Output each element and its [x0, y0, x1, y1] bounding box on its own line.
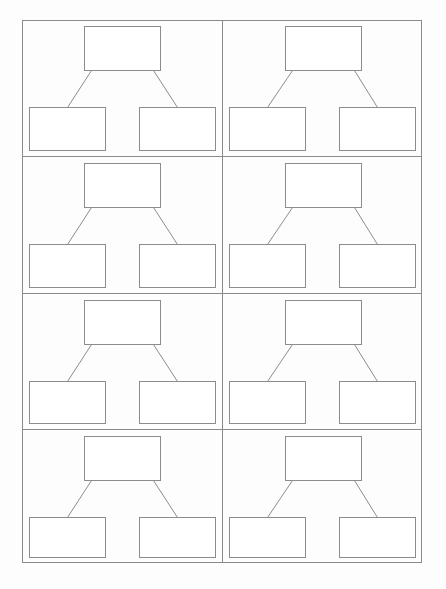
- right-connector-line: [355, 208, 378, 245]
- left-connector-line: [68, 71, 92, 108]
- right-connector-line: [355, 481, 378, 518]
- left-child-box-text[interactable]: [230, 245, 305, 287]
- tree-diagram-cell: [22, 293, 222, 429]
- left-child-box-text[interactable]: [30, 518, 105, 557]
- left-child-box-text[interactable]: [30, 108, 105, 150]
- right-connector-line: [154, 208, 178, 245]
- parent-box-text[interactable]: [85, 301, 160, 344]
- parent-box-text[interactable]: [85, 27, 160, 70]
- parent-box-text[interactable]: [286, 27, 361, 70]
- left-connector-line: [268, 71, 293, 108]
- right-child-box-text[interactable]: [140, 518, 215, 557]
- tree-diagram-cell: [222, 20, 422, 156]
- right-child-box-text[interactable]: [140, 245, 215, 287]
- left-child-box-text[interactable]: [230, 108, 305, 150]
- tree-diagram-cell: [222, 429, 422, 563]
- left-child-box-text[interactable]: [30, 245, 105, 287]
- right-child-box-text[interactable]: [140, 382, 215, 423]
- left-child-box-text[interactable]: [230, 382, 305, 423]
- right-child-box-text[interactable]: [140, 108, 215, 150]
- right-connector-line: [154, 71, 178, 108]
- right-child-box-text[interactable]: [340, 108, 415, 150]
- right-connector-line: [355, 345, 378, 382]
- tree-diagram-cell: [22, 156, 222, 293]
- left-connector-line: [68, 345, 92, 382]
- left-connector-line: [268, 345, 293, 382]
- left-connector-line: [68, 481, 92, 518]
- left-child-box-text[interactable]: [230, 518, 305, 557]
- parent-box-text[interactable]: [85, 164, 160, 207]
- right-connector-line: [154, 345, 178, 382]
- tree-diagram-cell: [222, 156, 422, 293]
- left-connector-line: [68, 208, 92, 245]
- parent-box-text[interactable]: [85, 437, 160, 480]
- left-child-box-text[interactable]: [30, 382, 105, 423]
- worksheet-page: [0, 0, 446, 589]
- right-connector-line: [154, 481, 178, 518]
- parent-box-text[interactable]: [286, 164, 361, 207]
- left-connector-line: [268, 208, 293, 245]
- tree-diagram-cell: [22, 429, 222, 563]
- tree-diagram-cell: [22, 20, 222, 156]
- parent-box-text[interactable]: [286, 301, 361, 344]
- parent-box-text[interactable]: [286, 437, 361, 480]
- right-child-box-text[interactable]: [340, 382, 415, 423]
- right-connector-line: [355, 71, 378, 108]
- left-connector-line: [268, 481, 293, 518]
- right-child-box-text[interactable]: [340, 518, 415, 557]
- tree-diagram-cell: [222, 293, 422, 429]
- right-child-box-text[interactable]: [340, 245, 415, 287]
